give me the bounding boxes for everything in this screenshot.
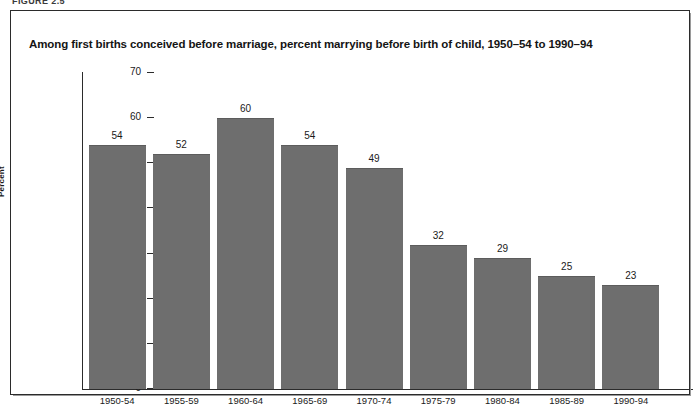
bar-group[interactable]: 491970-74 [346, 73, 403, 389]
bar-group[interactable]: 541965-69 [281, 73, 338, 389]
bar-group[interactable]: 291980-84 [474, 73, 531, 389]
bar-value-label: 49 [346, 153, 403, 164]
bar-group[interactable]: 521955-59 [153, 73, 210, 389]
bar[interactable] [217, 118, 274, 389]
bar-value-label: 52 [153, 139, 210, 150]
bar-value-label: 25 [538, 261, 595, 272]
bar[interactable] [153, 154, 210, 389]
plot-area: 010203040506070 541950-54521955-59601960… [83, 73, 693, 389]
bar-group[interactable]: 231990-94 [602, 73, 659, 389]
y-axis-title: Percent [0, 166, 6, 197]
bar-value-label: 32 [410, 230, 467, 241]
x-axis-line [82, 389, 693, 390]
figure-caption: FIGURE 2.5 [12, 0, 132, 5]
bar[interactable] [474, 258, 531, 389]
bar[interactable] [346, 168, 403, 389]
figure-frame: Among first births conceived before marr… [10, 10, 690, 395]
bar-group[interactable]: 601960-64 [217, 73, 274, 389]
bar-group[interactable]: 321975-79 [410, 73, 467, 389]
bar-value-label: 54 [281, 130, 338, 141]
bar[interactable] [602, 285, 659, 389]
bar[interactable] [281, 145, 338, 389]
bar[interactable] [89, 145, 146, 389]
chart-title: Among first births conceived before marr… [29, 38, 593, 50]
bar[interactable] [410, 245, 467, 389]
bar-value-label: 54 [89, 130, 146, 141]
bar-group[interactable]: 251985-89 [538, 73, 595, 389]
x-axis-category-label: 1990-94 [588, 395, 673, 406]
bar-value-label: 23 [602, 270, 659, 281]
bar-value-label: 29 [474, 243, 531, 254]
bar-value-label: 60 [217, 103, 274, 114]
bar-group[interactable]: 541950-54 [89, 73, 146, 389]
bar[interactable] [538, 276, 595, 389]
